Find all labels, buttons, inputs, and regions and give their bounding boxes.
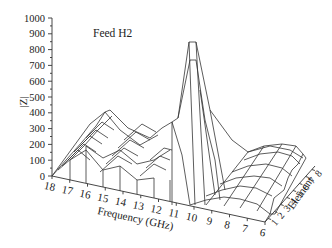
y-tick-label: 600 — [29, 76, 45, 87]
y-tick-label: 200 — [29, 139, 45, 150]
y-tick-label: 1000 — [24, 13, 45, 24]
y-tick-label: 500 — [29, 92, 45, 103]
frequency-tick-label: 9 — [206, 214, 214, 227]
y-tick-label: 100 — [29, 155, 45, 166]
frequency-tick-label: 14 — [114, 194, 128, 208]
frequency-tick-label: 8 — [223, 218, 231, 231]
frequency-tick-label: 15 — [96, 191, 110, 205]
element-tick-label: 1 — [269, 217, 281, 228]
frequency-tick-label: 13 — [132, 198, 146, 212]
y-tick-label: 0 — [40, 171, 45, 182]
frequency-tick-label: 18 — [43, 179, 57, 193]
chart-title: Feed H2 — [93, 27, 133, 39]
frequency-tick-label: 7 — [241, 222, 249, 235]
y-tick-label: 800 — [29, 44, 45, 55]
y-tick-label: 700 — [29, 60, 45, 71]
y-tick-label: 400 — [29, 107, 45, 118]
y-tick-label: 900 — [29, 28, 45, 39]
element-axis-label: Element — [285, 174, 316, 211]
frequency-tick-label: 12 — [150, 202, 163, 216]
element-tick-label: 8 — [312, 168, 324, 179]
frequency-tick-label: 10 — [185, 210, 199, 224]
frequency-axis: 1817161514131211109876 — [43, 176, 267, 239]
frequency-tick-label: 17 — [61, 183, 75, 197]
frequency-tick-label: 11 — [168, 206, 181, 220]
frequency-tick-label: 6 — [259, 226, 267, 239]
surface-plot: Feed H2 01002003004005006007008009001000… — [0, 0, 332, 248]
y-axis-label: |Z| — [17, 96, 29, 107]
y-tick-label: 300 — [29, 123, 45, 134]
frequency-tick-label: 16 — [79, 187, 93, 201]
